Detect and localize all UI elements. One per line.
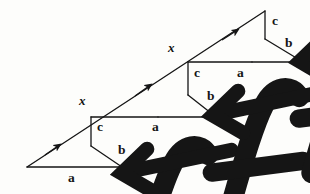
side-label-c-3: c bbox=[272, 14, 278, 28]
side-label-a-3: a bbox=[237, 66, 244, 80]
side-label-b-2: b bbox=[207, 89, 215, 103]
side-label-b-3: b bbox=[285, 36, 293, 50]
force-vector-label-2 bbox=[118, 62, 135, 82]
diagram-canvas: x x c b a c b a c b a bbox=[0, 0, 310, 194]
side-label-c-2: c bbox=[194, 66, 200, 80]
displacement-label-1: x bbox=[79, 94, 86, 107]
force-vector-label-3 bbox=[205, 8, 222, 28]
side-label-c-1: c bbox=[97, 120, 103, 134]
side-label-a-1: a bbox=[68, 171, 75, 185]
side-label-b-1: b bbox=[118, 143, 126, 157]
side-label-a-2: a bbox=[152, 120, 159, 134]
displacement-label-2: x bbox=[168, 41, 175, 54]
force-vector-label-1 bbox=[27, 120, 44, 140]
